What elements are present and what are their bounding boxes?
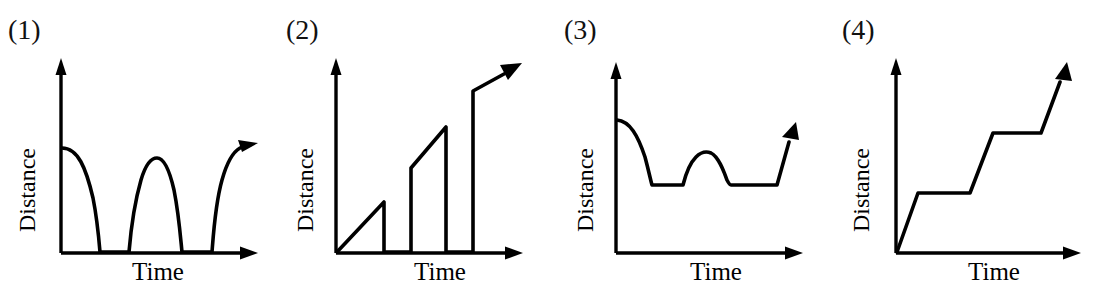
y-axis — [56, 58, 67, 253]
y-axis — [331, 58, 342, 253]
y-axis — [611, 62, 622, 253]
data-curve — [897, 62, 1072, 252]
panel-4-plot — [834, 0, 1112, 297]
x-axis — [61, 247, 258, 260]
panel-2: (2) Distance Time — [278, 0, 556, 297]
data-curve — [617, 120, 799, 185]
x-axis — [616, 247, 803, 260]
distance-time-figure: (1) Distance Time (2) Distance Time — [0, 0, 1113, 297]
panel-1-plot — [0, 0, 278, 297]
panel-3: (3) Distance Time — [556, 0, 834, 297]
y-axis — [891, 58, 902, 253]
data-curve — [62, 140, 258, 252]
data-curve — [337, 63, 522, 252]
x-axis — [336, 247, 523, 260]
panel-2-plot — [278, 0, 556, 297]
x-axis — [896, 247, 1081, 260]
panel-1: (1) Distance Time — [0, 0, 278, 297]
panel-3-plot — [556, 0, 834, 297]
panel-4: (4) Distance Time — [834, 0, 1112, 297]
